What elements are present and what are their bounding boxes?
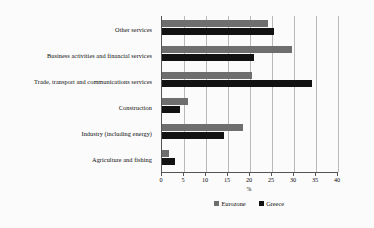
- tick-label: 30: [290, 176, 296, 184]
- value-axis-ticks: 0510152025303540: [161, 173, 337, 185]
- tick-label: 15: [224, 176, 230, 184]
- bar-eurozone: [162, 98, 188, 105]
- bar-group: [162, 146, 338, 172]
- category-label: Industry (including energy): [0, 130, 152, 137]
- bar-greece: [162, 80, 312, 87]
- legend-swatch-icon: [214, 201, 219, 206]
- chart-legend: EurozoneGreece: [161, 200, 337, 207]
- bar-group: [162, 16, 338, 42]
- tick-label: 35: [312, 176, 318, 184]
- bar-group: [162, 68, 338, 94]
- legend-label: Greece: [266, 200, 284, 207]
- tick-label: 20: [246, 176, 252, 184]
- category-label: Business activities and financial servic…: [0, 52, 152, 59]
- bar-chart: Agriculture and fishingIndustry (includi…: [0, 0, 374, 228]
- tick-label: 40: [334, 176, 340, 184]
- bar-eurozone: [162, 20, 268, 27]
- gridline: [338, 16, 339, 172]
- bar-eurozone: [162, 72, 252, 79]
- plot-area: [161, 16, 338, 173]
- bar-greece: [162, 28, 274, 35]
- bar-greece: [162, 106, 180, 113]
- x-axis-title: %: [161, 185, 337, 193]
- tick-label: 0: [159, 176, 162, 184]
- category-label: Other services: [0, 26, 152, 33]
- bar-eurozone: [162, 124, 243, 131]
- legend-item[interactable]: Greece: [259, 200, 284, 207]
- bar-greece: [162, 54, 254, 61]
- legend-label: Eurozone: [222, 200, 246, 207]
- bar-group: [162, 94, 338, 120]
- category-label: Construction: [0, 104, 152, 111]
- tick-label: 25: [268, 176, 274, 184]
- bar-greece: [162, 132, 224, 139]
- bar-eurozone: [162, 46, 292, 53]
- category-label: Agriculture and fishing: [0, 156, 152, 163]
- category-label: Trade, transport and communications serv…: [0, 78, 152, 85]
- bar-group: [162, 42, 338, 68]
- category-axis-labels: Agriculture and fishingIndustry (includi…: [0, 16, 156, 172]
- bar-eurozone: [162, 150, 169, 157]
- tick-label: 5: [181, 176, 184, 184]
- legend-swatch-icon: [259, 201, 264, 206]
- tick-label: 10: [202, 176, 208, 184]
- bar-group: [162, 120, 338, 146]
- legend-item[interactable]: Eurozone: [214, 200, 246, 207]
- bar-greece: [162, 158, 175, 165]
